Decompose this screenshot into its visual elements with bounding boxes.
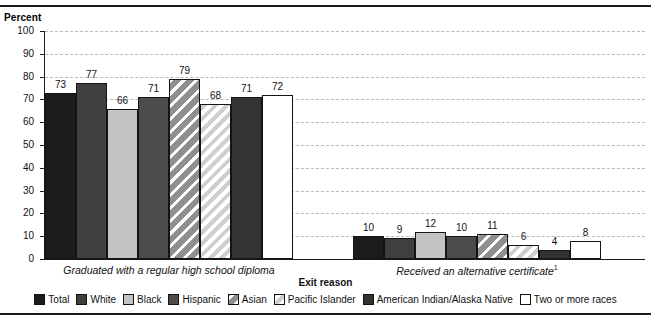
bar-value-label: 79 xyxy=(169,66,200,76)
clipped-figure-title xyxy=(70,0,490,3)
legend-swatch-icon xyxy=(274,294,285,305)
legend-swatch-icon xyxy=(168,294,179,305)
legend-item-white[interactable]: White xyxy=(76,294,116,305)
legend-label: Hispanic xyxy=(182,294,220,305)
legend-label: Asian xyxy=(242,294,267,305)
bar-value-label: 68 xyxy=(200,91,231,101)
y-tick-mark xyxy=(40,31,45,32)
bar xyxy=(76,83,107,259)
x-axis-line xyxy=(45,259,645,260)
bar xyxy=(231,97,262,259)
legend-item-black[interactable]: Black xyxy=(123,294,161,305)
legend-label: White xyxy=(90,294,116,305)
bar xyxy=(45,93,76,259)
legend-swatch-icon xyxy=(520,294,531,305)
y-tick-label: 40 xyxy=(8,163,34,173)
bar-value-label: 10 xyxy=(446,223,477,233)
legend-swatch-icon xyxy=(34,294,45,305)
legend-swatch-icon xyxy=(228,294,239,305)
legend-label: American Indian/Alaska Native xyxy=(377,294,513,305)
y-tick-label: 60 xyxy=(8,117,34,127)
bar xyxy=(353,236,384,259)
legend-item-asian[interactable]: Asian xyxy=(228,294,267,305)
legend-item-hispanic[interactable]: Hispanic xyxy=(168,294,220,305)
gridline xyxy=(45,77,645,78)
bar-value-label: 10 xyxy=(353,223,384,233)
bar xyxy=(477,234,508,259)
top-divider-rule xyxy=(0,5,651,7)
y-tick-label: 30 xyxy=(8,186,34,196)
group-caption: Received an alternative certificate1 xyxy=(353,264,601,277)
bar xyxy=(138,97,169,259)
bar xyxy=(539,250,570,259)
bar-value-label: 71 xyxy=(138,84,169,94)
legend-item-two[interactable]: Two or more races xyxy=(520,294,617,305)
legend-item-amind[interactable]: American Indian/Alaska Native xyxy=(363,294,513,305)
y-tick-label: 10 xyxy=(8,231,34,241)
bar xyxy=(384,238,415,259)
y-tick-label: 0 xyxy=(8,254,34,264)
y-tick-mark xyxy=(40,77,45,78)
legend-swatch-icon xyxy=(76,294,87,305)
bar xyxy=(570,241,601,259)
bar-value-label: 8 xyxy=(570,228,601,238)
y-tick-mark xyxy=(40,259,45,260)
bar-value-label: 71 xyxy=(231,84,262,94)
legend-label: Black xyxy=(137,294,161,305)
bar xyxy=(107,109,138,259)
legend-label: Total xyxy=(48,294,69,305)
bar-value-label: 4 xyxy=(539,237,570,247)
chart-legend: TotalWhiteBlackHispanicAsianPacific Isla… xyxy=(0,292,651,306)
gridline xyxy=(45,31,645,32)
group-caption: Graduated with a regular high school dip… xyxy=(45,264,293,276)
legend-label: Pacific Islander xyxy=(288,294,356,305)
bar-value-label: 11 xyxy=(477,221,508,231)
y-tick-label: 100 xyxy=(8,26,34,36)
legend-label: Two or more races xyxy=(534,294,617,305)
legend-swatch-icon xyxy=(123,294,134,305)
bar-value-label: 9 xyxy=(384,225,415,235)
bar xyxy=(262,95,293,259)
bar xyxy=(169,79,200,259)
y-tick-label: 70 xyxy=(8,94,34,104)
legend-item-pacific[interactable]: Pacific Islander xyxy=(274,294,356,305)
bar xyxy=(508,245,539,259)
bar-value-label: 72 xyxy=(262,82,293,92)
bar xyxy=(415,232,446,259)
y-tick-label: 50 xyxy=(8,140,34,150)
legend-item-total[interactable]: Total xyxy=(34,294,69,305)
y-tick-label: 80 xyxy=(8,72,34,82)
bar xyxy=(200,104,231,259)
chart-figure: Percent 1009080706050403020100 737766717… xyxy=(0,0,651,319)
bar-value-label: 77 xyxy=(76,70,107,80)
y-axis-label: Percent xyxy=(4,12,41,23)
bar xyxy=(446,236,477,259)
x-axis-title: Exit reason xyxy=(0,277,651,288)
y-tick-label: 90 xyxy=(8,49,34,59)
bottom-divider-rule xyxy=(0,313,651,315)
bar-value-label: 6 xyxy=(508,232,539,242)
footnote-marker: 1 xyxy=(554,264,558,271)
bar-value-label: 73 xyxy=(45,80,76,90)
bar-value-label: 66 xyxy=(107,96,138,106)
y-tick-mark xyxy=(40,54,45,55)
legend-swatch-icon xyxy=(363,294,374,305)
gridline xyxy=(45,54,645,55)
y-tick-label: 20 xyxy=(8,208,34,218)
bar-value-label: 12 xyxy=(415,219,446,229)
